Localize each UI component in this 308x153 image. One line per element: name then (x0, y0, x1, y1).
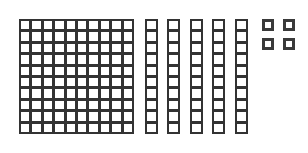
ten-rod (212, 19, 225, 134)
rod-cell (167, 122, 180, 134)
hundred-flat (19, 19, 134, 134)
unit-cube (262, 19, 274, 31)
base-ten-blocks-diagram (0, 0, 308, 153)
unit-cube (283, 19, 295, 31)
unit-cube (283, 38, 295, 50)
rod-cell (190, 122, 203, 134)
ten-rod (190, 19, 203, 134)
rod-cell (145, 122, 158, 134)
rod-cell (235, 122, 248, 134)
ten-rod (235, 19, 248, 134)
hundred-cell (122, 122, 134, 134)
rod-cell (212, 122, 225, 134)
unit-cube (262, 38, 274, 50)
ten-rod (145, 19, 158, 134)
ten-rod (167, 19, 180, 134)
